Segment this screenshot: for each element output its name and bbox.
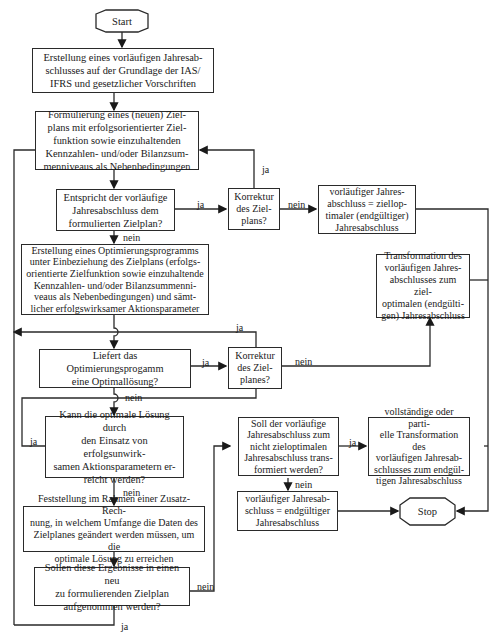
edge-label-yes-newplan: ja [121, 621, 128, 632]
new-target-plan-decision: Sollen diese Ergebnisse in einen neu zu … [34, 567, 190, 606]
edge-label-no-transform: nein [295, 479, 312, 490]
stop-terminal: Stop [400, 498, 455, 525]
edge-label-yes-correct1: ja [262, 164, 269, 175]
edge-label-yes-matches: ja [197, 199, 204, 210]
create-optimization-program-box: Erstellung eines Optimierungsprogramms u… [21, 244, 209, 315]
transformation-to-optimal-box: Transformation des vorläufigen Jahres- a… [376, 254, 470, 318]
start-terminal: Start [96, 10, 148, 32]
edge-label-no-correct1: nein [288, 199, 305, 210]
edge-label-no-unaffected: nein [123, 487, 140, 498]
edge-label-yes-correct2: ja [236, 322, 243, 333]
create-preliminary-statement-box: Erstellung eines vorläufigen Jahresab- s… [32, 48, 214, 93]
non-profit-parameters-decision: Kann die optimale Lösung durch den Einsa… [45, 416, 184, 478]
transform-non-optimal-decision: Soll der vorläufige Jahresabschluss zum … [238, 417, 339, 476]
partial-transformation-box: vollständige oder parti- elle Transforma… [368, 417, 470, 476]
edge-label-yes-optimal: ja [202, 357, 209, 368]
edge-label-no-optimal: nein [125, 392, 142, 403]
edge-label-no-correct2: nein [295, 356, 312, 367]
preliminary-equals-optimal-box: vorläufiger Jahres- abschluss = ziellop-… [318, 185, 416, 234]
matches-target-plan-decision: Entspricht der vorläufige Jahresabschlus… [56, 189, 175, 231]
preliminary-equals-final-box: vorläufiger Jahresab- schluss = endgülti… [237, 491, 338, 531]
edge-label-yes-transform: ja [349, 437, 356, 448]
edge-label-yes-unaffected: ja [30, 436, 37, 447]
correct-target-plan-decision-1: Korrektur des Ziel- plans? [228, 188, 280, 230]
correct-target-plan-decision-2: Korrektur des Ziel- planes? [228, 347, 282, 389]
edge-label-no-newplan: nein [197, 581, 214, 592]
additional-calculation-box: Feststellung im Rahmen einer Zusatz-Rech… [23, 506, 205, 552]
optimal-solution-decision: Liefert das Optimierungsprogamm eine Opt… [39, 349, 191, 388]
edge-label-no-matches: nein [123, 232, 140, 243]
formulate-target-plan-box: Formulierung eines (neuen) Ziel- plans m… [35, 111, 199, 170]
